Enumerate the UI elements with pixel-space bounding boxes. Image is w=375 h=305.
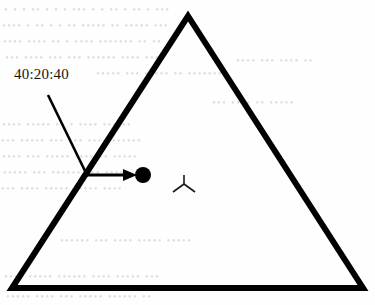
leader-line: [48, 95, 86, 173]
ternary-triangle: [12, 16, 363, 288]
composition-point: [135, 167, 151, 183]
composition-label: 40:20:40: [14, 66, 69, 83]
figure-canvas: • • • •• • • • ••• • • •• • •• • •••••••…: [0, 0, 375, 305]
annotation-arrow-head: [123, 169, 137, 181]
ternary-diagram: [0, 0, 375, 305]
tripod-symbol: [173, 175, 195, 192]
